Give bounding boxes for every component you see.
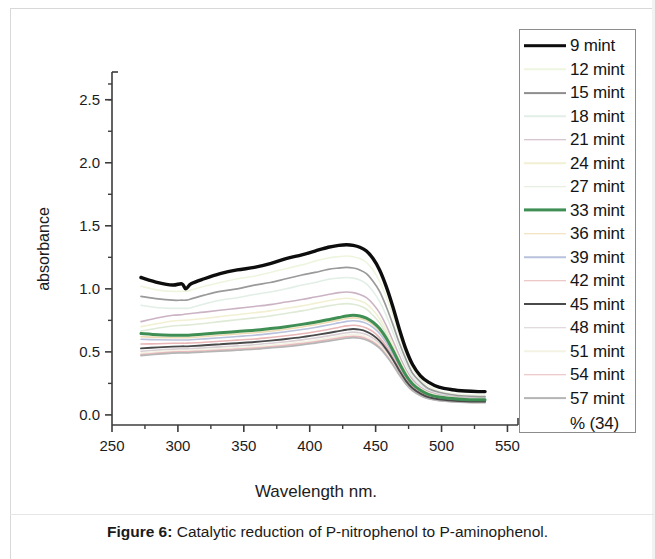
legend-item-label: 48 mint <box>570 319 624 336</box>
figure-caption-text: Catalytic reduction of P-nitrophenol to … <box>172 523 548 540</box>
legend-color-swatch <box>524 275 566 287</box>
legend-color-swatch <box>524 228 566 240</box>
legend-item: 33 mint <box>520 199 635 223</box>
x-tick-label: 550 <box>495 437 520 454</box>
legend-item: 36 mint <box>520 222 635 246</box>
legend-item-label: 51 mint <box>570 343 624 360</box>
caption-divider <box>10 514 654 515</box>
x-tick-label: 500 <box>429 437 454 454</box>
x-tick-label: 250 <box>99 437 124 454</box>
spectrum-curve <box>141 318 485 400</box>
legend-item-label: 9 mint <box>570 37 615 54</box>
legend-item: 15 mint <box>520 81 635 105</box>
legend-item-label: 42 mint <box>570 272 624 289</box>
legend-item: 27 mint <box>520 175 635 199</box>
figure-caption-label: Figure 6: <box>107 523 172 540</box>
legend-item-label: 54 mint <box>570 366 624 383</box>
legend-entry-list: 9 mint12 mint15 mint18 mint21 mint24 min… <box>520 34 635 410</box>
y-tick-label: 0.0 <box>79 406 100 423</box>
y-tick-label: 1.5 <box>79 217 100 234</box>
legend-color-swatch <box>524 110 566 122</box>
legend-color-swatch <box>524 322 566 334</box>
x-tick-label: 350 <box>231 437 256 454</box>
legend-color-swatch <box>524 87 566 99</box>
x-axis-label: Wavelength nm. <box>113 482 519 502</box>
legend-item: 9 mint <box>520 34 635 58</box>
legend-item-label: 33 mint <box>570 202 624 219</box>
legend-item: 54 mint <box>520 363 635 387</box>
figure-caption: Figure 6: Catalytic reduction of P-nitro… <box>0 523 655 541</box>
legend-color-swatch <box>524 63 566 75</box>
legend-item-label: 57 mint <box>570 390 624 407</box>
legend-item-label: 45 mint <box>570 296 624 313</box>
legend-item: 24 mint <box>520 152 635 176</box>
legend-item-label: 12 mint <box>570 61 624 78</box>
legend-color-swatch <box>524 392 566 404</box>
chart-curves <box>141 245 485 403</box>
legend-color-swatch <box>524 204 566 216</box>
legend-item-label: 27 mint <box>570 178 624 195</box>
legend-note: % (34) <box>520 410 635 436</box>
legend-item-label: 24 mint <box>570 155 624 172</box>
spectrum-curve <box>141 245 485 392</box>
y-tick-label: 2.0 <box>79 154 100 171</box>
legend-item: 39 mint <box>520 246 635 270</box>
chart-legend: 9 mint12 mint15 mint18 mint21 mint24 min… <box>519 29 636 433</box>
legend-color-swatch <box>524 345 566 357</box>
x-tick-label: 400 <box>297 437 322 454</box>
x-tick-label: 300 <box>165 437 190 454</box>
legend-item-label: 36 mint <box>570 225 624 242</box>
legend-color-swatch <box>524 181 566 193</box>
legend-color-swatch <box>524 40 566 52</box>
y-tick-label: 2.5 <box>79 91 100 108</box>
legend-item: 21 mint <box>520 128 635 152</box>
legend-item-label: 15 mint <box>570 84 624 101</box>
legend-color-swatch <box>524 298 566 310</box>
figure-6: 0.00.51.01.52.02.5250300350400450500550 … <box>0 0 655 515</box>
legend-color-swatch <box>524 369 566 381</box>
legend-item: 57 mint <box>520 387 635 411</box>
legend-item-label: 18 mint <box>570 108 624 125</box>
legend-item: 51 mint <box>520 340 635 364</box>
legend-item: 48 mint <box>520 316 635 340</box>
legend-item: 12 mint <box>520 58 635 82</box>
y-tick-label: 0.5 <box>79 343 100 360</box>
y-tick-label: 1.0 <box>79 280 100 297</box>
legend-color-swatch <box>524 157 566 169</box>
x-tick-label: 450 <box>363 437 388 454</box>
legend-item: 18 mint <box>520 105 635 129</box>
y-axis-label: absorbance <box>35 189 53 309</box>
legend-item-label: 39 mint <box>570 249 624 266</box>
legend-item: 45 mint <box>520 293 635 317</box>
legend-color-swatch <box>524 134 566 146</box>
legend-note-label: % (34) <box>570 415 619 432</box>
legend-item: 42 mint <box>520 269 635 293</box>
legend-item-label: 21 mint <box>570 131 624 148</box>
legend-color-swatch <box>524 251 566 263</box>
